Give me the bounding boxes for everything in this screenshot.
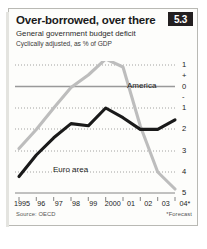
y-tick-plus-sign: + — [182, 72, 186, 80]
x-tick-1995: 1995 — [14, 199, 30, 208]
x-tick-97: 97 — [55, 199, 63, 208]
x-tick-04: 04* — [180, 199, 191, 208]
series-line-euro-area — [19, 108, 175, 177]
chart-subtitle: General government budget deficit — [16, 29, 193, 39]
y-tick-neg1: 1 — [182, 104, 186, 112]
page-title: Over-borrowed, over there — [16, 14, 193, 27]
chart-units: Cyclically adjusted, as % of GDP — [16, 39, 193, 48]
figure-number-badge: 5.3 — [168, 12, 193, 26]
source-note: Source: OECD — [16, 211, 56, 217]
x-tick-01: 01 — [127, 199, 135, 208]
y-axis: 1 + 0 - 1 2 3 4 5 — [182, 61, 198, 194]
chart-footer: Source: OECD *Forecast — [16, 211, 192, 221]
x-tick-96: 96 — [37, 199, 45, 208]
y-tick-neg2: 2 — [182, 125, 186, 133]
x-tick-99: 99 — [89, 199, 97, 208]
series-label-euro-area: Euro area — [53, 165, 88, 174]
y-tick-neg3: 3 — [182, 147, 186, 155]
y-tick-neg5: 5 — [182, 189, 186, 197]
forecast-note: *Forecast — [166, 211, 192, 217]
x-tick-02: 02 — [144, 199, 152, 208]
chart-header: Over-borrowed, over there General govern… — [16, 14, 193, 48]
x-tick-98: 98 — [72, 199, 80, 208]
y-tick-1: 1 — [182, 61, 186, 69]
series-label-america: America — [127, 81, 156, 90]
x-axis: 1995 96 97 98 99 2000 01 02 03 04* — [9, 199, 199, 211]
chart-panel: Over-borrowed, over there General govern… — [8, 8, 198, 226]
x-tick-2000: 2000 — [105, 199, 121, 208]
y-tick-0: 0 — [182, 83, 186, 91]
y-tick-minus-sign: - — [182, 93, 185, 101]
y-tick-neg4: 4 — [182, 168, 186, 176]
x-tick-03: 03 — [162, 199, 170, 208]
